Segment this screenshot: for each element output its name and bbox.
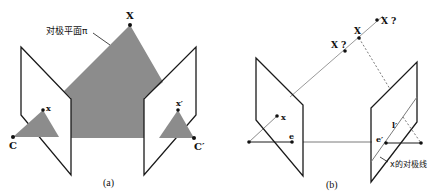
point-x-prime [176, 108, 180, 112]
label-C: C [9, 140, 17, 151]
caption-b: (b) [326, 179, 338, 191]
point-x [275, 114, 279, 118]
point-X-candidate-upper [375, 18, 379, 22]
label-X: X [354, 26, 361, 36]
label-epipolar-line-of-x: x的对极线 [390, 159, 427, 169]
point-C-prime [192, 136, 196, 140]
panel-b: x e e′ l′ X X ? X ? x的对极线 (b) [247, 16, 427, 191]
label-epipolar-plane: 对极平面π [46, 25, 88, 36]
label-e-prime: e′ [376, 134, 383, 144]
caption-a: (a) [103, 177, 114, 189]
point-X [357, 36, 361, 40]
left-triangle [13, 110, 59, 137]
label-e: e [289, 131, 294, 141]
left-image-plane [256, 58, 303, 176]
label-x-prime: x′ [176, 98, 183, 108]
epipolar-label-leader [380, 157, 388, 162]
back-projected-ray [290, 16, 383, 97]
projection-dashed-upper [359, 38, 390, 89]
projection-dashed-lower [403, 117, 421, 143]
plane-label-leader [93, 33, 110, 45]
point-camera-centre-right [419, 141, 423, 145]
point-C [11, 135, 15, 139]
epipolar-geometry-figure: X 对极平面π x x′ C C′ (a) [0, 0, 446, 194]
label-C-prime: C′ [194, 141, 205, 152]
label-x: x [46, 103, 51, 113]
label-X: X [126, 10, 134, 21]
label-l-prime: l′ [392, 120, 397, 130]
point-camera-centre-left [247, 140, 251, 144]
panel-a: X 对极平面π x x′ C C′ (a) [9, 10, 205, 189]
label-X-candidate-upper: X ? [381, 16, 396, 26]
label-X-candidate-lower: X ? [331, 40, 346, 50]
point-e-prime [384, 141, 388, 145]
epipolar-plane [64, 25, 163, 138]
point-X [128, 23, 132, 27]
point-x [41, 108, 45, 112]
label-x: x [281, 112, 286, 122]
